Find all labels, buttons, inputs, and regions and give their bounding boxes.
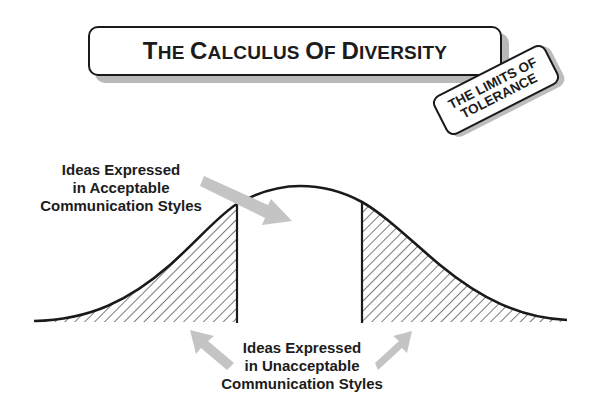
acceptable-label-line-2: in Acceptable	[30, 179, 212, 197]
unacceptable-label-line-1: Ideas Expressed	[212, 339, 392, 357]
acceptable-label-line-3: Communication Styles	[30, 197, 212, 215]
unacceptable-label-line-2: in Unacceptable	[212, 357, 392, 375]
arrow-to-center-icon	[200, 176, 292, 225]
unacceptable-label: Ideas Expressed in Unacceptable Communic…	[212, 339, 392, 393]
unacceptable-label-line-3: Communication Styles	[212, 375, 392, 393]
acceptable-label-line-1: Ideas Expressed	[30, 161, 212, 179]
acceptable-label: Ideas Expressed in Acceptable Communicat…	[30, 161, 212, 215]
